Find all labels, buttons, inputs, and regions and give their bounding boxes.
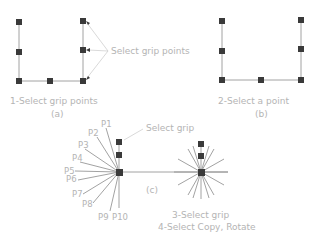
callout-select-grip: Select grip xyxy=(146,123,195,133)
panel-a: Select grip points 1-Select grip points … xyxy=(10,18,190,119)
caption-c-2: 4-Select Copy, Rotate xyxy=(158,222,256,232)
grip-point[interactable] xyxy=(219,77,225,83)
grip-point[interactable] xyxy=(16,78,22,84)
label-p1: P1 xyxy=(101,119,112,129)
caption-b: 2-Select a point xyxy=(218,96,289,106)
label-p9: P9 xyxy=(98,212,109,222)
grips-diagram: Select grip points 1-Select grip points … xyxy=(0,0,320,243)
leader-line xyxy=(87,51,108,78)
grip-point[interactable] xyxy=(16,19,22,25)
label-p8: P8 xyxy=(82,199,93,209)
label-p4: P4 xyxy=(72,153,83,163)
label-p7: P7 xyxy=(72,189,83,199)
callout-select-grip-points: Select grip points xyxy=(111,46,190,56)
panel-c: Select grip P1 P2 P3 P4 P5 P6 P7 P8 P9 P… xyxy=(64,119,256,232)
grip-point[interactable] xyxy=(219,18,225,24)
label-a: (a) xyxy=(51,109,64,119)
leader-line xyxy=(88,50,108,51)
grip-point[interactable] xyxy=(298,77,304,83)
base-grip[interactable] xyxy=(198,169,205,176)
leader-line xyxy=(124,129,143,140)
grip-point[interactable] xyxy=(198,153,204,159)
label-p3: P3 xyxy=(78,140,89,150)
grip-point[interactable] xyxy=(80,18,86,24)
grip-point[interactable] xyxy=(80,47,86,53)
grip-point[interactable] xyxy=(47,78,53,84)
grip-point[interactable] xyxy=(258,77,264,83)
base-grip[interactable] xyxy=(116,169,123,176)
polyline-b xyxy=(222,20,301,80)
arrow-icon xyxy=(86,48,90,52)
polyline-a xyxy=(19,21,83,81)
label-b: (b) xyxy=(255,109,268,119)
grip-point[interactable] xyxy=(219,48,225,54)
label-p2: P2 xyxy=(88,128,99,138)
arrow-icon xyxy=(86,76,90,80)
arrow-icon xyxy=(86,21,90,25)
leader-line xyxy=(87,23,108,51)
grip-point[interactable] xyxy=(80,78,86,84)
grip-point[interactable] xyxy=(298,17,304,23)
caption-c-1: 3-Select grip xyxy=(172,210,230,220)
grip-point[interactable] xyxy=(298,46,304,52)
grip-point[interactable] xyxy=(16,49,22,55)
grip-point[interactable] xyxy=(116,139,122,145)
label-p10: P10 xyxy=(112,212,128,222)
label-p6: P6 xyxy=(66,174,77,184)
panel-b: 2-Select a point (b) xyxy=(218,17,304,119)
grip-point[interactable] xyxy=(116,152,122,158)
label-c: (c) xyxy=(146,185,158,195)
grip-point[interactable] xyxy=(198,141,204,147)
caption-a: 1-Select grip points xyxy=(10,96,98,106)
